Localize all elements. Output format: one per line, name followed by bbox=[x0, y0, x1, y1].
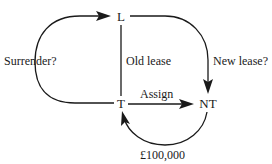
node-landlord: L bbox=[117, 9, 125, 24]
edge-assign-label: Assign bbox=[140, 87, 173, 101]
edge-surrender-label: Surrender? bbox=[4, 54, 57, 68]
lease-diagram: L T NT Surrender? Old lease New lease? A… bbox=[0, 0, 272, 164]
edge-payment-line bbox=[124, 112, 207, 145]
edge-payment-label: £100,000 bbox=[140, 148, 185, 162]
edge-new-lease-label: New lease? bbox=[213, 54, 268, 68]
node-new-tenant: NT bbox=[199, 96, 216, 111]
edge-old-lease-label: Old lease bbox=[126, 54, 171, 68]
edge-payment-arrowhead bbox=[121, 111, 130, 126]
edge-new-lease-line bbox=[130, 16, 208, 86]
node-tenant: T bbox=[117, 96, 125, 111]
